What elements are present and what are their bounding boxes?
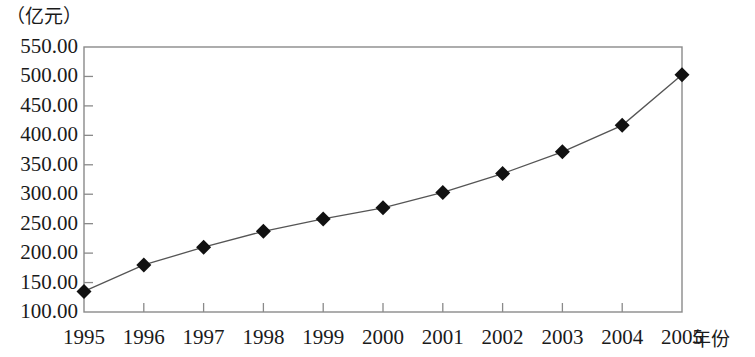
plot-area	[0, 0, 755, 357]
plot-border	[84, 47, 682, 312]
line-chart: （亿元） 550.00500.00450.00400.00350.00300.0…	[0, 0, 755, 357]
